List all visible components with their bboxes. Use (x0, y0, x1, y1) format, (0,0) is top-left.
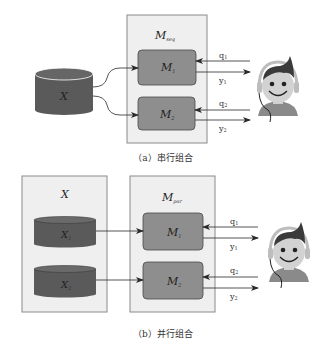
diagram-a-sequential: Mseq M1 M2 X q1 y1 q2 y2 （a）串行组合 (35, 15, 299, 163)
y1-label-b: y1 (229, 242, 238, 251)
q2-label: q2 (219, 99, 227, 108)
caption-b: （b）并行组合 (133, 328, 193, 339)
data-cylinder-x1: X1 (34, 217, 96, 248)
q2-label-b: q2 (230, 266, 238, 275)
q1-label-b: q1 (230, 217, 238, 226)
user-avatar-icon-b (268, 222, 310, 288)
y2-label: y2 (218, 124, 227, 133)
y2-label-b: y2 (229, 292, 238, 301)
y1-label: y1 (218, 76, 227, 85)
q1-label: q1 (219, 51, 227, 60)
caption-a: （a）串行组合 (133, 152, 192, 163)
diagram-canvas: Mseq M1 M2 X q1 y1 q2 y2 （a）串行组合 X (0, 0, 326, 347)
data-cylinder-x2: X2 (34, 266, 96, 298)
user-avatar-icon (257, 56, 299, 122)
x-container-label: X (60, 188, 70, 201)
data-x-label: X (59, 90, 69, 103)
data-cylinder-x: X (35, 68, 93, 115)
diagram-b-parallel: X X1 X2 Mpar M1 M2 q1 y1 q2 y2 （b）并 (22, 176, 310, 339)
